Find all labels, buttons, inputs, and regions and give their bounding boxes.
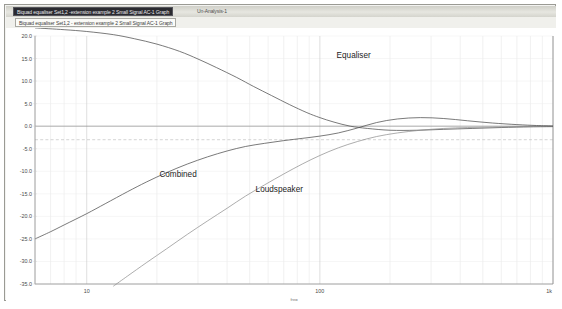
tab-graph-1[interactable]: Biquad equaliser Set1,2 - extension exam… [15,18,176,27]
plot-area: 20.015.010.05.00.0-5.0-10.0-15.0-20.0-25… [6,28,556,301]
x-axis-label: freq [290,297,298,301]
y-tick-label: -25.0 [20,236,32,242]
y-tick-label: 20.0 [22,33,33,39]
y-tick-label: 15.0 [22,56,33,62]
plot-frame [35,36,553,284]
x-tick-label: 1k [546,288,552,294]
grid-horizontal-lines [35,36,553,284]
y-tick-label: -10.0 [20,168,32,174]
series-label-loudspeaker: Loudspeaker [256,185,304,194]
y-tick-label: 0.0 [25,123,33,129]
y-tick-label: -35.0 [20,281,32,287]
curve-combined [35,118,553,239]
x-axis-title: freq [290,297,298,301]
graph-window: Biquad equaliser Set1,2 -extension examp… [4,4,556,301]
y-tick-label: 5.0 [25,101,33,107]
series-label-equaliser: Equaliser [337,51,371,60]
x-axis-tick-labels: 101001k [84,288,552,294]
curve-loudspeaker [113,126,553,286]
x-tick-label: 100 [315,288,324,294]
x-tick-label: 10 [84,288,90,294]
bode-magnitude-chart: 20.015.010.05.00.0-5.0-10.0-15.0-20.0-25… [6,28,556,301]
y-tick-label: 10.0 [22,78,33,84]
window-title-selected[interactable]: Biquad equaliser Set1,2 -extension examp… [13,7,173,16]
y-axis-tick-labels: 20.015.010.05.00.0-5.0-10.0-15.0-20.0-25… [20,33,37,287]
series-label-combined: Combined [159,170,197,179]
series-annotations: EqualiserLoudspeakerCombined [159,51,371,194]
y-tick-label: -20.0 [20,213,32,219]
grid-minor-lines [35,36,542,284]
window-title-unselected[interactable]: Un-Analysis-1 [194,7,230,16]
y-tick-label: -15.0 [20,191,32,197]
curve-equaliser [35,28,553,130]
y-tick-label: -5.0 [23,146,32,152]
series-curves [35,28,553,286]
y-tick-label: -30.0 [20,258,32,264]
